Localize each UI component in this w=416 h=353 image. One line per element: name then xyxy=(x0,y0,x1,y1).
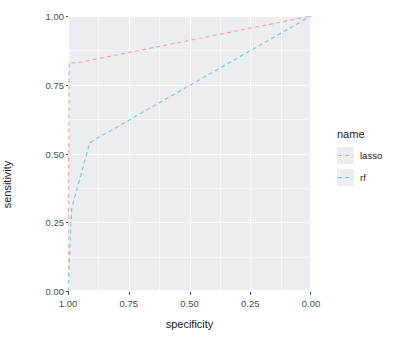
legend: name lassorf xyxy=(337,128,416,191)
x-tick-mark xyxy=(190,292,191,295)
legend-key-swatch xyxy=(337,147,354,164)
legend-item-rf[interactable]: rf xyxy=(337,169,416,186)
x-tick-label: 0.50 xyxy=(180,298,199,309)
roc-curve-plot: sensitivity 0.000.250.500.751.00 1.000.7… xyxy=(0,0,416,353)
x-tick-mark xyxy=(310,292,311,295)
x-tick-mark xyxy=(129,292,130,295)
series-line-lasso xyxy=(68,16,311,291)
x-tick-label: 1.00 xyxy=(59,298,78,309)
legend-item-lasso[interactable]: lasso xyxy=(337,147,416,164)
series-curves xyxy=(68,16,311,291)
series-line-rf xyxy=(68,16,311,291)
legend-key-swatch xyxy=(337,169,354,186)
x-tick-label: 0.00 xyxy=(302,298,321,309)
x-axis-title: specificity xyxy=(68,318,311,330)
x-tick-mark xyxy=(250,292,251,295)
legend-item-label: lasso xyxy=(360,150,382,161)
legend-title: name xyxy=(337,128,416,140)
x-tick-label: 0.75 xyxy=(120,298,139,309)
x-tick-label: 0.25 xyxy=(241,298,260,309)
plot-panel xyxy=(68,16,311,291)
legend-item-label: rf xyxy=(360,172,366,183)
x-tick-mark xyxy=(68,292,69,295)
legend-items: lassorf xyxy=(337,147,416,186)
